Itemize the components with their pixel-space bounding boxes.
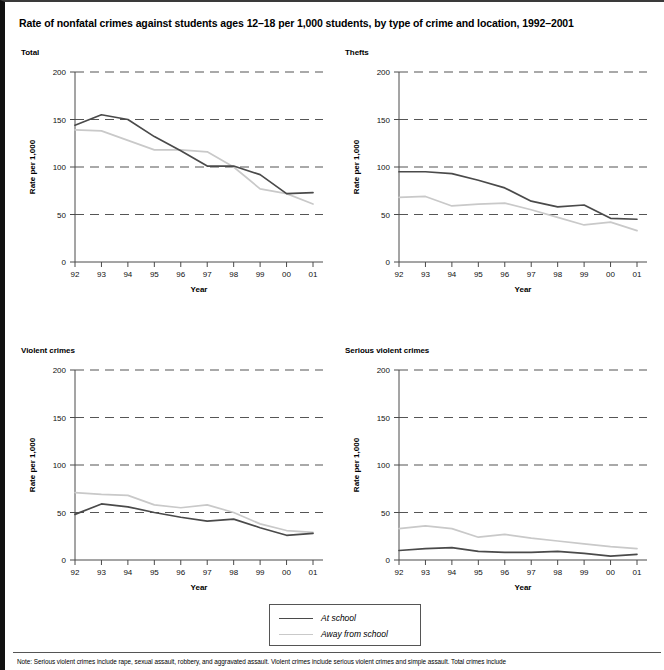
chart-panel-thefts: Thefts 05010015020092939495969798990001Y…	[337, 48, 657, 333]
y-tick-label: 100	[377, 163, 391, 172]
x-tick-label: 96	[176, 270, 185, 279]
x-tick-label: 95	[150, 568, 159, 577]
x-axis-title: Year	[191, 583, 208, 592]
y-tick-label: 150	[377, 116, 391, 125]
chart-svg: 05010015020092939495969798990001YearRate…	[13, 58, 333, 330]
series-line-away-from-school	[399, 526, 637, 549]
y-tick-label: 50	[57, 509, 66, 518]
x-tick-label: 98	[553, 270, 562, 279]
note-divider	[13, 652, 661, 653]
x-tick-label: 96	[500, 270, 509, 279]
y-tick-label: 150	[377, 414, 391, 423]
y-tick-label: 100	[377, 461, 391, 470]
y-tick-label: 50	[57, 211, 66, 220]
y-tick-label: 0	[62, 556, 67, 565]
x-tick-label: 95	[474, 568, 483, 577]
x-tick-label: 97	[527, 568, 536, 577]
x-tick-label: 94	[123, 270, 132, 279]
x-tick-label: 99	[256, 270, 265, 279]
y-tick-label: 0	[386, 556, 391, 565]
x-tick-label: 92	[395, 270, 404, 279]
chart-svg: 05010015020092939495969798990001YearRate…	[337, 58, 657, 330]
x-tick-label: 93	[97, 568, 106, 577]
chart-panel-violent-crimes: Violent crimes 0501001502009293949596979…	[13, 346, 333, 631]
x-tick-label: 00	[282, 568, 291, 577]
figure-note: Note: Serious violent crimes include rap…	[17, 658, 663, 666]
chart-title: Total	[21, 48, 39, 57]
legend-item-away-from-school: Away from school	[279, 627, 388, 641]
legend: At school Away from school	[269, 604, 421, 646]
y-tick-label: 200	[53, 68, 67, 77]
x-tick-label: 98	[229, 568, 238, 577]
legend-item-at-school: At school	[279, 611, 356, 625]
x-tick-label: 92	[71, 270, 80, 279]
x-tick-label: 96	[176, 568, 185, 577]
y-axis-title: Rate per 1,000	[352, 139, 361, 194]
x-tick-label: 94	[123, 568, 132, 577]
chart-panel-total: Total 05010015020092939495969798990001Ye…	[13, 48, 333, 333]
x-tick-label: 97	[527, 270, 536, 279]
x-tick-label: 99	[256, 568, 265, 577]
y-tick-label: 200	[377, 68, 391, 77]
legend-swatch-away-from-school	[279, 634, 313, 635]
x-tick-label: 93	[421, 270, 430, 279]
chart-svg: 05010015020092939495969798990001YearRate…	[337, 356, 657, 618]
y-axis-title: Rate per 1,000	[28, 437, 37, 492]
x-tick-label: 00	[282, 270, 291, 279]
chart-title: Thefts	[345, 48, 369, 57]
x-tick-label: 95	[474, 270, 483, 279]
legend-swatch-at-school	[279, 618, 313, 619]
x-tick-label: 92	[395, 568, 404, 577]
series-line-at-school	[75, 115, 313, 194]
y-tick-label: 50	[381, 211, 390, 220]
chart-title: Serious violent crimes	[345, 346, 429, 355]
chart-title: Violent crimes	[21, 346, 75, 355]
x-tick-label: 97	[203, 270, 212, 279]
x-tick-label: 92	[71, 568, 80, 577]
x-tick-label: 96	[500, 568, 509, 577]
y-tick-label: 100	[53, 163, 67, 172]
x-axis-title: Year	[515, 583, 532, 592]
figure-page: Rate of nonfatal crimes against students…	[0, 0, 664, 670]
y-axis-title: Rate per 1,000	[352, 437, 361, 492]
y-tick-label: 0	[386, 258, 391, 267]
y-tick-label: 200	[377, 366, 391, 375]
x-tick-label: 00	[606, 568, 615, 577]
series-line-at-school	[75, 504, 313, 535]
y-tick-label: 150	[53, 414, 67, 423]
chart-panel-serious-violent-crimes: Serious violent crimes 05010015020092939…	[337, 346, 657, 631]
x-tick-label: 93	[421, 568, 430, 577]
series-line-at-school	[399, 548, 637, 557]
y-tick-label: 0	[62, 258, 67, 267]
x-tick-label: 01	[633, 270, 642, 279]
chart-svg: 05010015020092939495969798990001YearRate…	[13, 356, 333, 618]
series-line-at-school	[399, 172, 637, 220]
x-tick-label: 01	[309, 568, 318, 577]
x-tick-label: 00	[606, 270, 615, 279]
y-axis-title: Rate per 1,000	[28, 139, 37, 194]
legend-label: Away from school	[321, 629, 388, 639]
x-axis-title: Year	[515, 285, 532, 294]
x-tick-label: 94	[447, 568, 456, 577]
x-tick-label: 01	[309, 270, 318, 279]
y-tick-label: 150	[53, 116, 67, 125]
x-tick-label: 97	[203, 568, 212, 577]
y-tick-label: 200	[53, 366, 67, 375]
x-axis-title: Year	[191, 285, 208, 294]
x-tick-label: 95	[150, 270, 159, 279]
y-tick-label: 50	[381, 509, 390, 518]
x-tick-label: 94	[447, 270, 456, 279]
x-tick-label: 99	[580, 568, 589, 577]
y-tick-label: 100	[53, 461, 67, 470]
x-tick-label: 98	[553, 568, 562, 577]
legend-label: At school	[321, 613, 356, 623]
page-title: Rate of nonfatal crimes against students…	[19, 17, 649, 30]
x-tick-label: 98	[229, 270, 238, 279]
x-tick-label: 93	[97, 270, 106, 279]
x-tick-label: 99	[580, 270, 589, 279]
x-tick-label: 01	[633, 568, 642, 577]
